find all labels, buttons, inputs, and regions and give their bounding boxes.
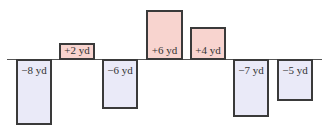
bar-4: +6 yd — [146, 10, 183, 60]
bar-2: +2 yd — [59, 43, 95, 60]
bar-1: −8 yd — [16, 59, 52, 125]
bar-5: +4 yd — [190, 27, 226, 60]
bar-3: −6 yd — [102, 59, 138, 109]
bar-label-7: −5 yd — [279, 64, 311, 76]
bar-label-1: −8 yd — [18, 64, 50, 76]
bar-label-5: +4 yd — [192, 44, 224, 56]
bar-label-2: +2 yd — [61, 44, 93, 56]
bar-label-4: +6 yd — [148, 44, 181, 56]
bar-label-3: −6 yd — [104, 64, 136, 76]
bar-7: −5 yd — [277, 59, 313, 101]
yardage-bar-chart: −8 yd +2 yd −6 yd +6 yd +4 yd −7 yd −5 y… — [0, 0, 330, 135]
bar-label-6: −7 yd — [235, 64, 267, 76]
bar-6: −7 yd — [233, 59, 269, 117]
